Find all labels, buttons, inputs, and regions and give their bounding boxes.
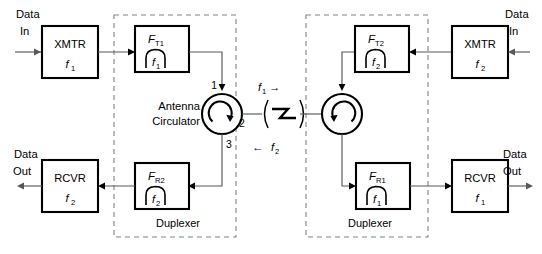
left-tx-filter-name-sub: T1 (155, 39, 164, 48)
left-circulator-port-1-label: 1 (211, 80, 217, 91)
left-txfilter-input-arrowhead (128, 49, 135, 56)
left-rx-filter-box (135, 163, 189, 209)
right-transmitter-name: XMTR (464, 38, 496, 50)
left-circulator-label-line2: Circulator (152, 115, 200, 127)
right-receiver-freq-sub: 1 (481, 198, 485, 207)
left-receiver-box (42, 160, 98, 212)
right-circulator-to-rxfilter-wire (342, 134, 353, 186)
right-receiver-box (452, 160, 508, 212)
left-circulator-port-3-label: 3 (226, 139, 232, 150)
link-left-arc (265, 100, 269, 128)
left-data-out-arrowhead (17, 183, 24, 190)
schematic-canvas: Data In XMTR f 1 F T1 f 1 Antenna Circul… (0, 0, 542, 254)
right-circulator-top-arrowhead (339, 84, 346, 91)
left-transmitter-box (42, 26, 98, 78)
right-data-out-label-line2: Out (503, 165, 522, 177)
link-forward-freq-sub: 1 (262, 87, 266, 96)
link-reverse-freq-sub: 2 (275, 147, 279, 156)
left-circulator-label-line1: Antenna (158, 100, 200, 112)
right-transmitter-freq-sub: 2 (481, 64, 485, 73)
right-data-out-arrowhead (526, 183, 533, 190)
right-txfilter-to-circulator-wire (342, 52, 355, 88)
left-data-in-label-line1: Data (16, 8, 40, 20)
right-data-in-label-line1: Data (505, 8, 529, 20)
left-data-in-arrowhead (34, 49, 41, 56)
right-tx-filter-name-sub: T2 (375, 39, 384, 48)
left-data-out-label-line2: Out (13, 165, 32, 177)
right-duplexer-label: Duplexer (348, 217, 392, 229)
left-duplexer-label: Duplexer (156, 217, 200, 229)
right-transmitter-box (452, 26, 508, 78)
left-rcvr-input-arrowhead (98, 183, 105, 190)
left-tx-filter-box (135, 26, 189, 72)
right-rx-filter-name-sub: R1 (376, 176, 386, 185)
right-tx-filter-freq-sub: 2 (376, 62, 380, 71)
link-forward-arrow: → (269, 81, 280, 93)
left-receiver-name: RCVR (54, 172, 86, 184)
left-receiver-freq-sub: 2 (71, 198, 75, 207)
link-reverse-arrow: ← (252, 141, 263, 153)
left-rx-filter-name-sub: R2 (155, 176, 165, 185)
right-data-in-label-line2: In (509, 25, 518, 37)
left-transmitter-name: XMTR (54, 38, 86, 50)
left-tx-filter-freq-sub: 1 (156, 62, 160, 71)
left-transmitter-freq-sub: 1 (71, 64, 75, 73)
duplex-radio-link-diagram: Data In XMTR f 1 F T1 f 1 Antenna Circul… (0, 0, 542, 254)
left-circulator-port-2-label: 2 (239, 118, 245, 129)
left-txfilter-to-circulator-wire (189, 52, 222, 88)
left-circulator-port1-arrowhead (219, 84, 226, 91)
left-circulator-to-rxfilter-wire (191, 134, 222, 186)
right-tx-filter-box (355, 26, 409, 72)
left-data-out-label-line1: Data (14, 148, 38, 160)
right-rx-filter-freq-sub: 1 (377, 199, 381, 208)
right-data-out-label-line1: Data (503, 148, 527, 160)
wireless-link-symbol (265, 100, 304, 128)
right-rx-filter-box (356, 163, 410, 209)
left-data-in-label-line2: In (20, 25, 29, 37)
left-rx-filter-freq-sub: 2 (156, 199, 160, 208)
link-lightning-bolt (272, 109, 296, 118)
right-receiver-name: RCVR (464, 172, 496, 184)
